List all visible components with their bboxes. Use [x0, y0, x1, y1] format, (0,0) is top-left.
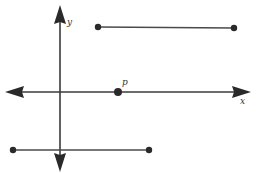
x-axis-left-arrow-icon — [5, 86, 24, 98]
y-axis-bottom-arrow-icon — [54, 153, 66, 172]
y-axis-top-arrow-icon — [54, 5, 66, 24]
x-axis: x — [5, 86, 251, 106]
point-p-label: p — [122, 77, 128, 87]
bottom-segment — [10, 147, 152, 153]
point-p: p — [114, 77, 128, 96]
top-segment-right-endpoint — [231, 25, 237, 31]
top-segment — [95, 24, 237, 31]
y-axis-label: y — [66, 17, 73, 27]
top-segment-left-endpoint — [95, 24, 101, 30]
coordinate-diagram: x y p — [0, 0, 256, 173]
y-axis: y — [54, 5, 73, 172]
point-p-dot — [114, 88, 122, 96]
bottom-segment-right-endpoint — [146, 147, 152, 153]
top-segment-line — [98, 27, 234, 28]
bottom-segment-left-endpoint — [10, 147, 16, 153]
x-axis-label: x — [240, 96, 245, 106]
